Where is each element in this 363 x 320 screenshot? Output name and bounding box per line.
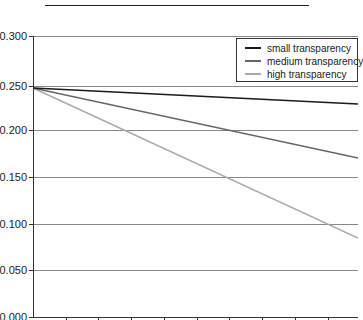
legend-item-small: small transparency	[245, 42, 351, 54]
legend-swatch-icon	[245, 47, 261, 49]
y-label-0100: 0.100	[0, 218, 27, 230]
series-medium-transparency	[33, 88, 358, 158]
y-label-0300: 0.300	[0, 30, 27, 42]
series-lines	[33, 88, 358, 238]
y-label-0150: 0.150	[0, 171, 27, 183]
y-label-0050: 0.050	[0, 264, 27, 276]
legend-label: medium transparency	[267, 56, 363, 67]
y-label-0000: 0.000	[0, 311, 27, 320]
y-label-0250: 0.250	[0, 80, 27, 92]
series-high-transparency	[33, 88, 358, 238]
legend-label: high transparency	[267, 69, 347, 80]
y-axis-labels: 0.300 0.250 0.200 0.150 0.100 0.050 0.00…	[0, 30, 27, 320]
legend-swatch-icon	[245, 73, 261, 75]
legend-item-high: high transparency	[245, 68, 347, 80]
legend-swatch-icon	[245, 60, 261, 62]
chart-legend: small transparency medium transparency h…	[236, 38, 358, 82]
series-small-transparency	[33, 88, 358, 104]
legend-label: small transparency	[267, 43, 351, 54]
y-label-0200: 0.200	[0, 124, 27, 136]
legend-item-medium: medium transparency	[245, 55, 363, 67]
